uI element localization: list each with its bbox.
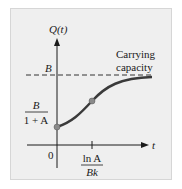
x-axis-label: t — [152, 139, 156, 151]
logistic-curve — [57, 77, 152, 127]
initial-value-denominator: 1 + A — [24, 114, 49, 126]
x-axis-arrow-icon — [141, 142, 149, 148]
inflection-time-numerator: ln A — [83, 152, 102, 164]
initial-value-numerator: B — [33, 99, 40, 111]
origin-label: 0 — [48, 149, 54, 161]
carrying-label-line1: Carrying — [116, 48, 156, 60]
carrying-label-line2: capacity — [116, 61, 153, 73]
y-axis-label: Q(t) — [49, 23, 68, 36]
y-axis-arrow-icon — [54, 38, 60, 46]
asymptote-label: B — [45, 62, 52, 74]
logistic-growth-diagram: Q(t) t 0 B Carrying capacity B 1 + A ln … — [0, 0, 182, 189]
inflection-time-denominator: Bk — [86, 166, 99, 178]
initial-point — [54, 124, 60, 130]
inflection-point — [89, 98, 95, 104]
